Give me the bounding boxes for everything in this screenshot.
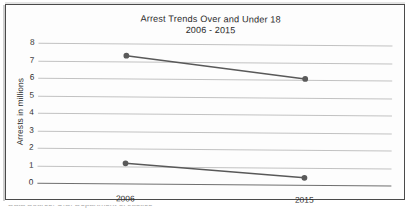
data-point-marker: [302, 175, 308, 181]
y-tick-label: 5: [20, 90, 34, 99]
y-tick-label: 8: [20, 38, 34, 47]
data-point-marker: [302, 76, 308, 82]
x-tick-label: 2006: [95, 193, 155, 203]
plot-area: 012345678 20062015: [37, 43, 392, 186]
chart-subtitle: 2006 - 2015: [41, 24, 381, 38]
data-point-marker: [123, 53, 129, 59]
series-line: [126, 56, 305, 79]
chart-screenshot: Arrest Trends Over and Under 18 2006 - 2…: [0, 0, 413, 213]
bottom-caption-text: Data Source: U.S. Department of Justice: [8, 205, 338, 208]
y-tick-label: 7: [20, 55, 34, 64]
y-tick-label: 2: [20, 143, 34, 152]
y-tick-label: 1: [19, 160, 33, 169]
bottom-caption-bleed: Data Source: U.S. Department of Justice: [8, 205, 338, 213]
y-tick-label: 0: [19, 178, 33, 187]
series-group: [37, 43, 392, 186]
y-tick-label: 4: [20, 108, 34, 117]
y-tick-label: 3: [20, 125, 34, 134]
chart-skew-wrapper: Arrest Trends Over and Under 18 2006 - 2…: [0, 0, 413, 213]
x-tick-label: 2015: [274, 195, 334, 205]
series-line: [125, 163, 304, 178]
data-point-marker: [123, 160, 129, 166]
y-tick-label: 6: [20, 73, 34, 82]
